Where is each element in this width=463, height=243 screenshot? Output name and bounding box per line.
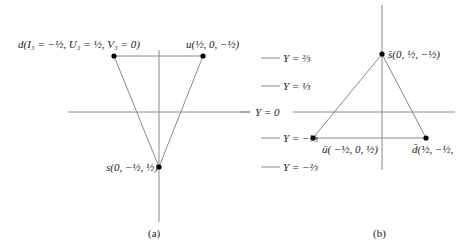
level-label-y-m1-3: Y = −⅓ xyxy=(283,132,318,144)
caption-b: (b) xyxy=(373,227,386,239)
b-edge-sbar-dbar xyxy=(382,54,426,138)
diagram-canvas xyxy=(0,0,463,243)
level-label-y-0: Y = 0 xyxy=(255,106,280,118)
level-label-y-m2-3: Y = −⅔ xyxy=(283,161,318,173)
label-u-antiquark: ū( −½, 0, ½) xyxy=(322,143,378,155)
caption-a: (a) xyxy=(148,227,160,239)
b-point-dbar xyxy=(423,135,428,140)
level-label-y-1-3: Y = ⅓ xyxy=(283,80,310,92)
a-point-u xyxy=(200,53,205,58)
b-edge-sbar-ubar xyxy=(313,54,382,138)
label-s-antiquark: s̄(0, ½, −½) xyxy=(388,48,440,60)
label-d-antiquark: d̄(½, −½, xyxy=(412,143,453,155)
label-d-quark: d(I₃ = −½, U₃ = ½, V₃ = 0) xyxy=(18,38,140,50)
level-label-y-2-3: Y = ⅔ xyxy=(283,52,310,64)
b-point-sbar xyxy=(379,51,384,56)
a-point-d xyxy=(111,53,116,58)
label-u-quark: u(½, 0, −½) xyxy=(186,38,239,50)
label-s-quark: s(0, −½, ½) xyxy=(106,161,158,173)
